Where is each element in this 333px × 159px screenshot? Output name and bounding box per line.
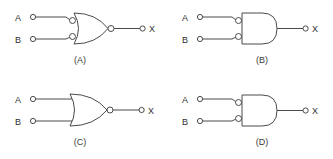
gate-body-and-icon xyxy=(242,95,277,126)
input-terminal-a[interactable] xyxy=(30,14,35,19)
input-bubble-a-icon xyxy=(70,18,76,24)
input-bubble-b-icon xyxy=(236,116,242,122)
input-wire-b xyxy=(36,37,70,39)
pin-label-a: A xyxy=(15,13,21,23)
pin-label-b: B xyxy=(15,35,21,45)
pin-label-b: B xyxy=(182,35,188,45)
gate-caption-b: (B) xyxy=(256,55,268,65)
output-bubble-icon xyxy=(107,107,113,113)
output-bubble-icon xyxy=(108,26,114,32)
gate-body-and-icon xyxy=(242,13,277,44)
input-terminal-b[interactable] xyxy=(30,36,35,41)
pin-label-x: X xyxy=(149,24,155,34)
input-wire-b xyxy=(203,119,236,121)
output-terminal-x[interactable] xyxy=(140,26,145,31)
gate-caption-a: (A) xyxy=(74,55,86,65)
pin-label-a: A xyxy=(182,13,188,23)
input-terminal-b[interactable] xyxy=(197,36,202,41)
pin-label-x: X xyxy=(148,106,154,116)
output-terminal-x[interactable] xyxy=(303,26,308,31)
pin-label-b: B xyxy=(15,117,21,127)
input-bubble-a-icon xyxy=(236,100,242,106)
pin-label-x: X xyxy=(312,24,318,34)
input-terminal-b[interactable] xyxy=(197,118,202,123)
input-terminal-a[interactable] xyxy=(197,96,202,101)
gate-body-or-icon xyxy=(74,13,108,44)
gate-diagram-d: A B X (D) xyxy=(182,95,318,148)
gate-body-or-icon xyxy=(70,94,107,126)
gate-caption-d: (D) xyxy=(256,137,269,147)
input-wire-a xyxy=(203,99,236,102)
input-wire-b xyxy=(203,37,236,39)
input-bubble-b-icon xyxy=(236,34,242,40)
gate-caption-c: (C) xyxy=(74,137,87,147)
output-terminal-x[interactable] xyxy=(139,107,144,112)
output-terminal-x[interactable] xyxy=(303,108,308,113)
logic-gate-figure: A B X (A) A B X (B) A B X (C) xyxy=(0,0,333,159)
input-wire-a xyxy=(203,17,236,20)
pin-label-b: B xyxy=(182,117,188,127)
gate-diagram-a: A B X (A) xyxy=(15,13,155,66)
pin-label-a: A xyxy=(15,95,21,105)
pin-label-x: X xyxy=(312,106,318,116)
pin-label-a: A xyxy=(182,95,188,105)
input-bubble-a-icon xyxy=(236,18,242,24)
input-terminal-b[interactable] xyxy=(30,118,35,123)
gate-diagram-c: A B X (C) xyxy=(15,94,154,147)
input-terminal-a[interactable] xyxy=(30,96,35,101)
input-wire-a xyxy=(36,17,70,20)
input-terminal-a[interactable] xyxy=(197,14,202,19)
input-bubble-b-icon xyxy=(70,34,76,40)
gate-diagram-b: A B X (B) xyxy=(182,13,318,66)
